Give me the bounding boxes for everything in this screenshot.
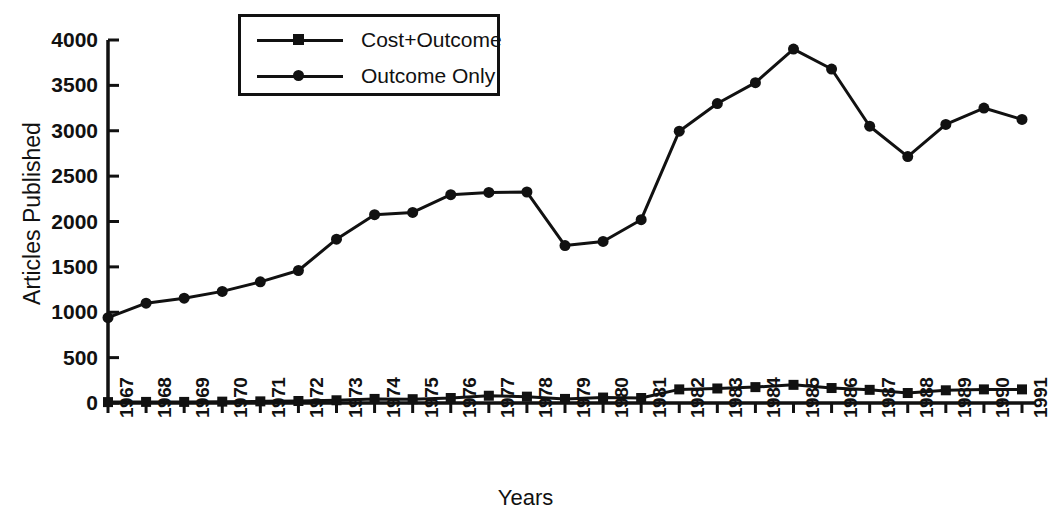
x-tick-label: 1979 — [573, 378, 595, 418]
data-point-marker-square — [484, 391, 494, 401]
x-tick-label: 1967 — [116, 378, 138, 418]
x-tick-label: 1984 — [763, 378, 785, 418]
x-tick-label: 1969 — [192, 378, 214, 418]
data-point-marker-square — [827, 383, 837, 393]
x-tick-label: 1974 — [383, 378, 405, 418]
data-point-marker-square — [255, 396, 265, 406]
x-tick-label: 1983 — [725, 378, 747, 418]
data-point-marker-square — [179, 397, 189, 407]
x-tick-label: 1989 — [954, 378, 976, 418]
data-point-marker-circle — [483, 187, 494, 198]
data-point-marker-circle — [902, 151, 913, 162]
data-point-marker-square — [865, 385, 875, 395]
x-tick-label: 1980 — [611, 378, 633, 418]
data-point-marker-square — [674, 384, 684, 394]
x-tick-label: 1968 — [154, 378, 176, 418]
x-tick-label: 1988 — [916, 378, 938, 418]
data-point-marker-square — [941, 385, 951, 395]
data-point-marker-square — [103, 397, 113, 407]
data-point-marker-square — [598, 393, 608, 403]
legend: Cost+Outcome Outcome Only — [238, 14, 500, 96]
data-point-marker-circle — [636, 214, 647, 225]
data-point-marker-circle — [560, 240, 571, 251]
data-point-marker-circle — [331, 234, 342, 245]
data-point-marker-circle — [598, 236, 609, 247]
data-point-marker-square — [750, 382, 760, 392]
x-tick-label: 1971 — [268, 378, 290, 418]
x-tick-label: 1987 — [878, 378, 900, 418]
x-tick-label: 1975 — [421, 378, 443, 418]
legend-label-cost-outcome: Cost+Outcome — [361, 28, 502, 52]
data-point-marker-circle — [978, 103, 989, 114]
data-point-marker-square — [370, 394, 380, 404]
x-tick-label: 1970 — [230, 378, 252, 418]
x-tick-label: 1978 — [535, 378, 557, 418]
x-tick-label: 1991 — [1030, 378, 1051, 418]
data-point-marker-circle — [179, 293, 190, 304]
data-point-marker-square — [141, 397, 151, 407]
data-point-marker-square — [1017, 384, 1027, 394]
data-point-marker-square — [636, 393, 646, 403]
data-point-marker-circle — [674, 126, 685, 137]
legend-swatch-square-icon — [257, 30, 343, 50]
data-point-marker-circle — [255, 276, 266, 287]
data-point-marker-circle — [369, 209, 380, 220]
legend-item-cost-outcome: Cost+Outcome — [241, 25, 497, 55]
data-point-marker-circle — [103, 312, 114, 323]
x-tick-label: 1981 — [649, 378, 671, 418]
data-point-marker-square — [903, 388, 913, 398]
x-tick-label: 1973 — [345, 378, 367, 418]
data-point-marker-square — [712, 383, 722, 393]
data-point-marker-square — [560, 394, 570, 404]
x-tick-label: 1977 — [497, 378, 519, 418]
legend-item-outcome-only: Outcome Only — [241, 61, 497, 91]
data-point-marker-square — [408, 394, 418, 404]
data-point-marker-square — [979, 384, 989, 394]
x-tick-label: 1972 — [306, 378, 328, 418]
data-point-marker-circle — [521, 187, 532, 198]
data-point-marker-square — [446, 393, 456, 403]
chart-container: Articles Published 050010001500200025003… — [0, 0, 1051, 520]
x-tick-label: 1990 — [992, 378, 1014, 418]
data-point-marker-square — [293, 396, 303, 406]
x-tick-label: 1986 — [840, 378, 862, 418]
data-point-marker-square — [522, 392, 532, 402]
legend-label-outcome-only: Outcome Only — [361, 64, 495, 88]
x-tick-label: 1985 — [802, 378, 824, 418]
plot-area — [0, 0, 1051, 520]
data-point-marker-circle — [1017, 114, 1028, 125]
data-point-marker-square — [789, 380, 799, 390]
data-point-marker-square — [217, 397, 227, 407]
data-point-marker-circle — [940, 119, 951, 130]
data-point-marker-circle — [217, 286, 228, 297]
data-point-marker-circle — [293, 265, 304, 276]
data-point-marker-circle — [445, 189, 456, 200]
data-point-marker-circle — [407, 207, 418, 218]
data-point-marker-circle — [826, 64, 837, 75]
x-tick-label: 1982 — [687, 378, 709, 418]
data-point-marker-circle — [750, 77, 761, 88]
data-point-marker-circle — [864, 121, 875, 132]
x-tick-label: 1976 — [459, 378, 481, 418]
data-point-marker-circle — [788, 44, 799, 55]
data-point-marker-circle — [141, 298, 152, 309]
legend-swatch-circle-icon — [257, 66, 343, 86]
data-point-marker-circle — [712, 98, 723, 109]
x-axis-title: Years — [0, 485, 1051, 511]
data-point-marker-square — [332, 395, 342, 405]
